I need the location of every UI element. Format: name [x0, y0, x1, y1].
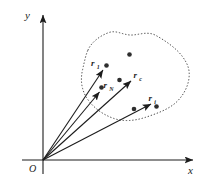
vector-r1-subscript: 1	[97, 64, 100, 70]
vector-diagram-svg: y x O r 1 r N r c r i	[0, 0, 208, 189]
particle-dot	[132, 107, 137, 112]
vector-rc-label: r	[134, 70, 138, 80]
vector-ri-subscript: i	[154, 99, 156, 105]
vector-rN-arrow	[43, 92, 100, 160]
figure-canvas: y x O r 1 r N r c r i	[0, 0, 208, 189]
vector-rc-subscript: c	[139, 76, 142, 82]
particle-dot	[104, 63, 109, 68]
vector-r1-label: r	[91, 58, 95, 68]
particle-dot	[127, 52, 132, 57]
vector-r1-arrow	[43, 70, 103, 160]
vector-ri-arrow	[43, 104, 151, 160]
vector-rc-arrow	[43, 81, 131, 160]
x-axis-label: x	[187, 164, 193, 176]
vector-ri-label: r	[149, 93, 153, 103]
particle-dot	[117, 78, 122, 83]
origin-label: O	[29, 163, 36, 174]
particle-dot	[154, 104, 159, 109]
y-axis-label: y	[24, 9, 30, 21]
vector-rN-subscript: N	[108, 86, 114, 92]
vector-rN-label: r	[104, 80, 108, 90]
